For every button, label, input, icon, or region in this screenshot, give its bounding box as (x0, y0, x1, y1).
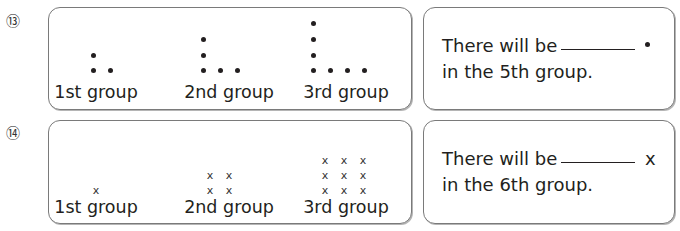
answer-line-1: There will be (442, 34, 650, 58)
answer-box-13: There will be in the 5th group. (423, 7, 675, 110)
group-label-3rd: 3rd group (303, 82, 389, 102)
problem-number-14: ⑭ (6, 122, 20, 142)
group-label-3rd: 3rd group (303, 197, 389, 217)
pattern-box-13: 1st group 2nd group 3rd group (48, 7, 412, 110)
answer-blank[interactable] (561, 49, 635, 50)
x-symbol: x (645, 148, 656, 169)
dot-symbol (645, 42, 650, 47)
answer-line-2: in the 6th group. (442, 173, 593, 197)
group-label-2nd: 2nd group (184, 197, 274, 217)
problem-number-13: ⑬ (6, 10, 20, 30)
answer-line-2: in the 5th group. (442, 60, 593, 84)
answer-blank[interactable] (561, 162, 635, 163)
group-label-1st: 1st group (54, 197, 138, 217)
pattern-box-14: x 1st group x x x x 2nd group x x x x x … (48, 120, 412, 224)
answer-line-1: There will be x (442, 147, 656, 171)
group-label-1st: 1st group (54, 82, 138, 102)
group-label-2nd: 2nd group (184, 82, 274, 102)
answer-box-14: There will be x in the 6th group. (423, 120, 675, 224)
